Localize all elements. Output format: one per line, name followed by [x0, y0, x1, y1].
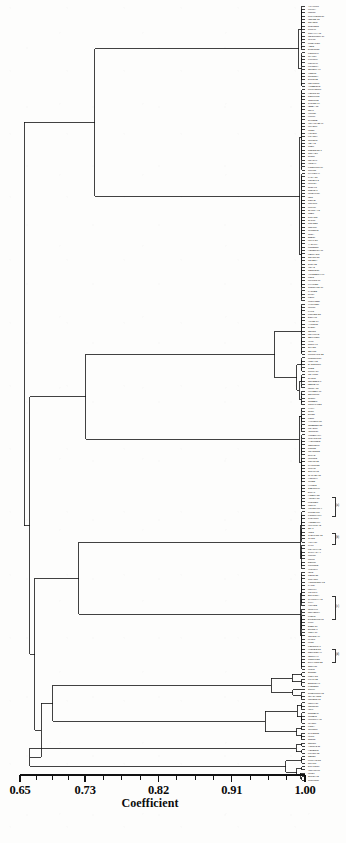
axis-title: Coefficient [0, 796, 300, 811]
dendrogram-tree [0, 0, 346, 790]
dendrogram-plot-area [0, 0, 346, 790]
dendrogram-figure: Y7Y9FWU9607FALNR7PRWH9LBQ8-50I33KOE-18ZN… [0, 0, 346, 843]
coefficient-axis: 0.650.730.820.911.00 Coefficient [0, 772, 346, 832]
